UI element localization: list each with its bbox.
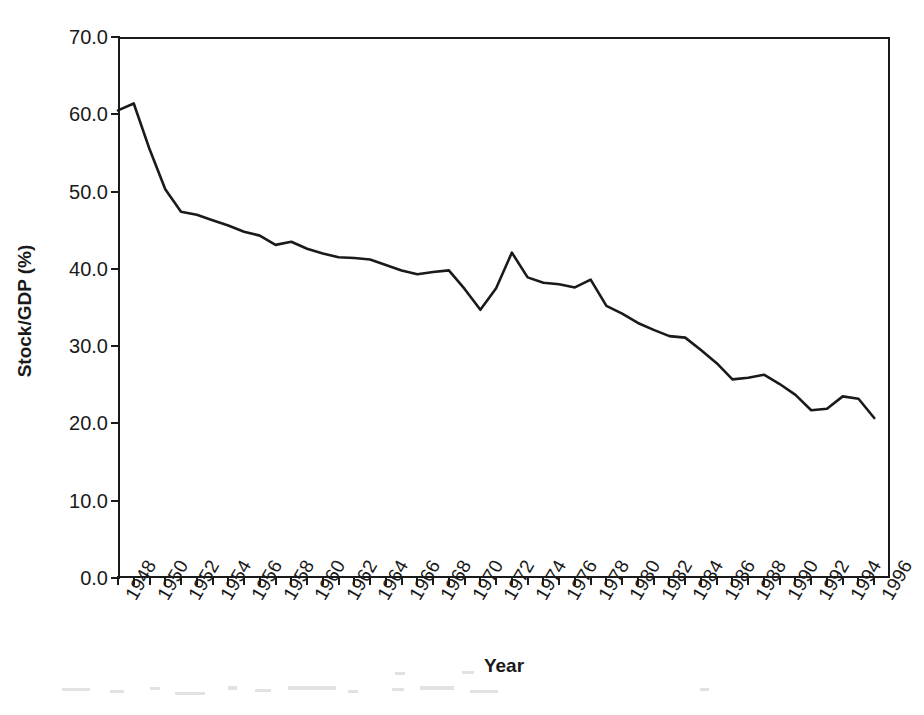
scan-speckle [255, 689, 271, 692]
scan-speckle [288, 686, 336, 690]
y-axis-tick-label: 0.0 [80, 567, 108, 590]
scan-speckle [470, 690, 498, 693]
y-axis-tick-label: 60.0 [69, 103, 108, 126]
scan-speckle [348, 690, 358, 693]
scan-speckle [110, 690, 124, 693]
scan-speckle [228, 686, 237, 690]
scan-speckle [150, 687, 160, 690]
y-axis-tick-label: 70.0 [69, 26, 108, 49]
y-axis-tick-label: 10.0 [69, 489, 108, 512]
scan-speckle [175, 692, 205, 695]
scan-speckle [700, 688, 709, 691]
y-axis-tick-label: 50.0 [69, 180, 108, 203]
y-axis-tick-label: 20.0 [69, 412, 108, 435]
scan-speckle [62, 688, 90, 691]
scan-speckle [420, 686, 454, 690]
y-axis-title: Stock/GDP (%) [14, 181, 36, 441]
data-series-line [118, 37, 890, 578]
chart-figure: Stock/GDP (%) 70.060.050.040.030.020.010… [0, 0, 924, 715]
scan-speckle [462, 671, 474, 674]
plot-area: 70.060.050.040.030.020.010.00.0 19481950… [118, 37, 890, 578]
scan-speckle [395, 672, 405, 675]
y-axis-tick-label: 40.0 [69, 257, 108, 280]
x-axis-title: Year [118, 655, 890, 677]
y-axis-tick-label: 30.0 [69, 335, 108, 358]
scan-speckle [392, 688, 404, 691]
